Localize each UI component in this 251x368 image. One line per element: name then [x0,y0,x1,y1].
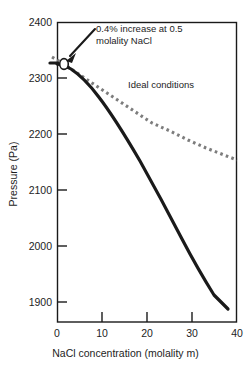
x-tick-marks [102,312,192,322]
ytick-label-1900: 1900 [8,297,52,308]
y-axis-title: Pressure (Pa) [7,134,19,214]
xtick-label-40: 40 [222,328,251,339]
x-axis-title: NaCl concentration (molality m) [0,347,251,359]
ytick-label-2400: 2400 [8,17,52,28]
xtick-label-20: 20 [132,328,162,339]
ytick-label-2300: 2300 [8,73,52,84]
callout-annotation: 0.4% increase at 0.5 molality NaCl [96,23,183,46]
chart-figure: 2400 2300 2200 2100 2000 1900 0 10 20 30… [0,0,251,368]
xtick-label-0: 0 [42,328,72,339]
series-ideal-conditions [52,57,237,160]
callout-arrow [66,29,95,63]
xtick-label-30: 30 [177,328,207,339]
series-real-solution [57,64,228,309]
y-tick-marks [58,78,68,302]
xtick-label-10: 10 [87,328,117,339]
callout-line-1: 0.4% increase at 0.5 [96,23,183,35]
ytick-label-2000: 2000 [8,241,52,252]
callout-line-2: molality NaCl [96,35,183,47]
ideal-conditions-label: Ideal conditions [128,79,194,91]
